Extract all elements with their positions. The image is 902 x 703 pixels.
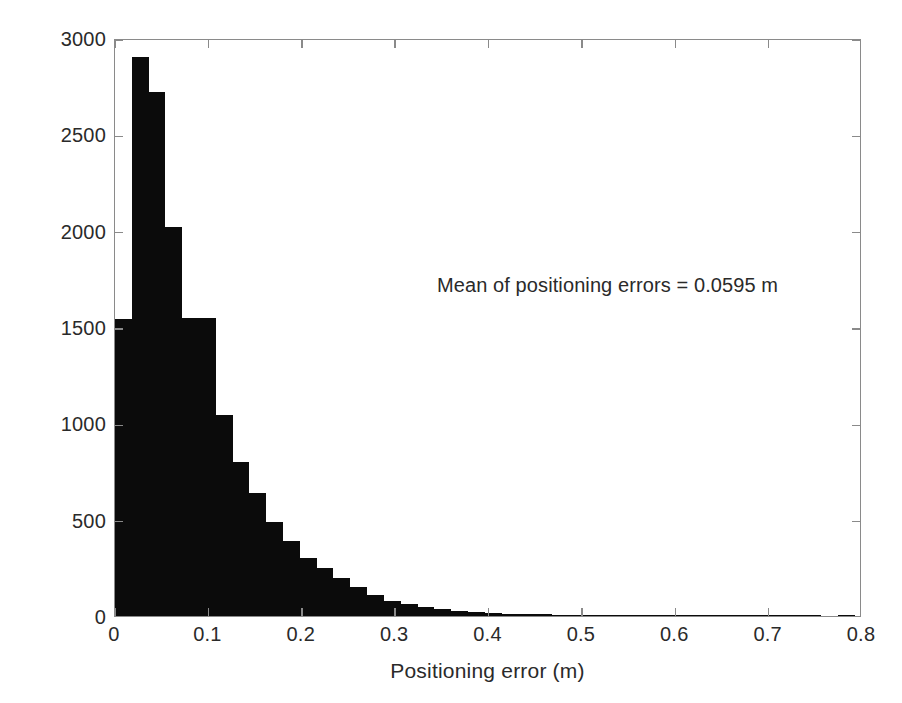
histogram-bar (586, 615, 603, 617)
histogram-bar (333, 578, 350, 616)
y-tick-mark (852, 521, 860, 523)
x-tick-mark (114, 40, 116, 48)
x-tick-mark (114, 608, 116, 616)
y-tick-mark (852, 328, 860, 330)
histogram-bar (770, 615, 787, 617)
x-tick-mark (488, 40, 490, 48)
x-tick-label: 0.6 (660, 623, 688, 646)
x-tick-label: 0.1 (193, 623, 221, 646)
y-tick-mark (852, 136, 860, 138)
histogram-bar (636, 615, 653, 617)
histogram-bar (115, 319, 132, 616)
x-tick-label: 0.7 (753, 623, 781, 646)
plot-area (114, 39, 861, 617)
y-tick-label: 3000 (61, 28, 106, 51)
histogram-bar (434, 609, 451, 616)
histogram-bar (619, 615, 636, 617)
y-tick-label: 0 (95, 606, 106, 629)
x-tick-mark (768, 608, 770, 616)
histogram-bar (703, 615, 720, 617)
histogram-bar (602, 615, 619, 617)
histogram-bar (384, 601, 401, 616)
y-tick-mark (115, 39, 123, 41)
histogram-bar (317, 568, 334, 616)
x-tick-mark (301, 40, 303, 48)
histogram-bar (233, 462, 250, 616)
histogram-bar (720, 615, 737, 617)
x-tick-label: 0.3 (380, 623, 408, 646)
histogram-bar (804, 615, 821, 617)
histogram-bar (350, 587, 367, 616)
histogram-bar (686, 615, 703, 617)
histogram-bar (182, 318, 199, 616)
y-tick-label: 1000 (61, 413, 106, 436)
y-tick-mark (115, 136, 123, 138)
y-tick-mark (115, 425, 123, 427)
histogram-bar (149, 92, 166, 616)
histogram-bar (266, 522, 283, 616)
histogram-bar (737, 615, 754, 617)
mean-annotation: Mean of positioning errors = 0.0595 m (437, 274, 778, 297)
histogram-bar (367, 595, 384, 616)
histogram-bar (670, 615, 687, 617)
y-tick-mark (115, 328, 123, 330)
histogram-figure: 00.10.20.30.40.50.60.70.8 05001000150020… (0, 0, 902, 703)
y-tick-label: 2500 (61, 124, 106, 147)
x-tick-mark (301, 608, 303, 616)
x-tick-mark (394, 608, 396, 616)
histogram-bar (552, 615, 569, 617)
histogram-bar (535, 614, 552, 616)
histogram-bar (249, 493, 266, 616)
y-tick-mark (852, 39, 860, 41)
histogram-bar (468, 612, 485, 616)
x-tick-mark (581, 40, 583, 48)
x-tick-mark (488, 608, 490, 616)
x-tick-mark (768, 40, 770, 48)
x-tick-mark (675, 40, 677, 48)
y-tick-label: 1500 (61, 317, 106, 340)
histogram-bar (569, 615, 586, 617)
histogram-bar (451, 611, 468, 616)
histogram-bar (838, 615, 855, 617)
y-tick-mark (115, 232, 123, 234)
x-tick-mark (581, 608, 583, 616)
x-tick-label: 0.5 (567, 623, 595, 646)
histogram-bar (787, 615, 804, 617)
y-tick-mark (852, 232, 860, 234)
x-tick-label: 0.8 (847, 623, 875, 646)
x-tick-mark (208, 608, 210, 616)
y-tick-label: 2000 (61, 220, 106, 243)
histogram-bar (653, 615, 670, 617)
histogram-bar (216, 415, 233, 616)
histogram-bar (283, 541, 300, 616)
y-tick-mark (115, 521, 123, 523)
histogram-bar (132, 57, 149, 616)
x-tick-mark (208, 40, 210, 48)
histogram-bar (418, 607, 435, 616)
histogram-bar (518, 614, 535, 616)
x-axis-title: Positioning error (m) (114, 659, 861, 683)
x-tick-label: 0.2 (287, 623, 315, 646)
histogram-bar (401, 604, 418, 616)
x-tick-label: 0 (108, 623, 119, 646)
x-tick-mark (394, 40, 396, 48)
y-tick-label: 500 (72, 509, 106, 532)
x-tick-mark (675, 608, 677, 616)
y-tick-mark (852, 425, 860, 427)
histogram-bar (165, 227, 182, 616)
x-tick-label: 0.4 (473, 623, 501, 646)
histogram-bar (502, 614, 519, 616)
histogram-bar (199, 318, 216, 616)
